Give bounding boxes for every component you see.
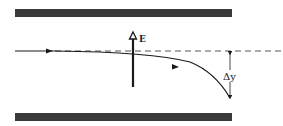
deflection-diagram: E Δy [0, 0, 283, 126]
bottom-plate [15, 113, 232, 121]
trajectory-arrow-icon [172, 64, 179, 70]
field-label: E [139, 34, 146, 44]
deflection-label: Δy [223, 71, 236, 82]
field-arrowhead-icon [130, 32, 137, 39]
deflected-trajectory [55, 51, 230, 98]
beam-direction-arrow-icon [46, 49, 53, 54]
top-plate [15, 9, 232, 17]
